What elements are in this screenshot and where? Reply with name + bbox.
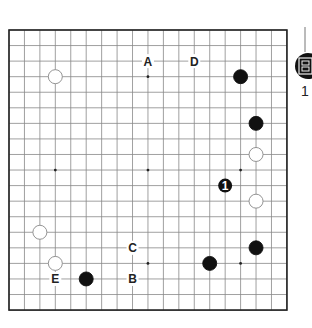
black-stone-badge-icon	[295, 53, 312, 79]
black-stone[interactable]	[203, 256, 217, 270]
point-label-c: C	[128, 241, 137, 255]
black-stone[interactable]	[79, 272, 93, 286]
star-point	[239, 169, 242, 172]
white-stone[interactable]	[249, 147, 263, 161]
point-label-e: E	[51, 272, 59, 286]
go-board-diagram: 1 ADCEB 1	[0, 0, 312, 328]
move-number: 1	[222, 179, 229, 193]
star-point	[239, 262, 242, 265]
star-point	[147, 75, 150, 78]
white-stone[interactable]	[48, 70, 62, 84]
white-stone[interactable]	[33, 225, 47, 239]
white-stone[interactable]	[48, 256, 62, 270]
side-marker: 1	[295, 27, 312, 99]
black-stone[interactable]	[234, 70, 248, 84]
black-stone[interactable]	[249, 241, 263, 255]
point-label-d: D	[190, 55, 199, 69]
point-label-b: B	[128, 272, 137, 286]
star-point	[54, 169, 57, 172]
point-label-a: A	[144, 55, 153, 69]
side-move-number: 1	[301, 83, 309, 99]
star-point	[147, 169, 150, 172]
black-stone[interactable]	[249, 116, 263, 130]
white-stone[interactable]	[249, 194, 263, 208]
star-point	[147, 262, 150, 265]
